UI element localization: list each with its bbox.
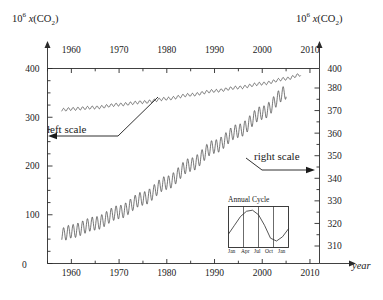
svg-text:380: 380 bbox=[328, 83, 343, 93]
svg-text:310: 310 bbox=[328, 241, 343, 251]
svg-text:300: 300 bbox=[25, 113, 40, 123]
svg-text:1970: 1970 bbox=[110, 268, 129, 278]
svg-text:400: 400 bbox=[328, 64, 343, 74]
svg-text:1980: 1980 bbox=[157, 268, 176, 278]
svg-text:370: 370 bbox=[328, 106, 343, 116]
svg-text:200: 200 bbox=[25, 161, 40, 171]
svg-text:1960: 1960 bbox=[62, 268, 81, 278]
svg-text:1990: 1990 bbox=[205, 45, 224, 55]
svg-text:2010: 2010 bbox=[300, 45, 319, 55]
svg-text:340: 340 bbox=[328, 174, 343, 184]
svg-text:2010: 2010 bbox=[300, 268, 319, 278]
svg-text:100: 100 bbox=[25, 210, 40, 220]
co2-chart-figure: 106 x(CO2) 106 x(CO2) left scale right s… bbox=[0, 0, 383, 300]
svg-text:360: 360 bbox=[328, 129, 343, 139]
svg-text:320: 320 bbox=[328, 219, 343, 229]
svg-text:350: 350 bbox=[328, 151, 343, 161]
svg-text:1990: 1990 bbox=[205, 268, 224, 278]
svg-text:330: 330 bbox=[328, 196, 343, 206]
svg-text:400: 400 bbox=[25, 64, 40, 74]
plot-surface: 1960197019801990200020101960197019801990… bbox=[0, 0, 383, 300]
svg-text:1970: 1970 bbox=[110, 45, 129, 55]
svg-text:1960: 1960 bbox=[62, 45, 81, 55]
svg-text:2000: 2000 bbox=[253, 268, 272, 278]
svg-text:1980: 1980 bbox=[157, 45, 176, 55]
svg-text:2000: 2000 bbox=[253, 45, 272, 55]
